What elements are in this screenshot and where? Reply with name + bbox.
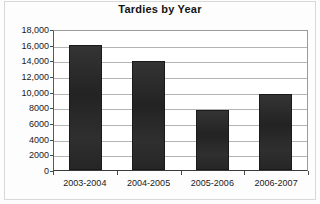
- x-axis-tick-mark: [53, 171, 54, 175]
- x-axis-tick-label: 2004-2005: [117, 177, 181, 189]
- bar-slot: [181, 31, 244, 170]
- chart-figure: Tardies by Year 18,00016,00014,00012,000…: [0, 0, 320, 204]
- y-axis-tick-label: 14,000: [4, 56, 49, 67]
- x-axis-labels: 2003-20042004-20052005-20062006-2007: [53, 177, 308, 189]
- y-axis-tick-label: 18,000: [4, 25, 49, 36]
- bar[interactable]: [259, 94, 292, 170]
- y-axis-tick-label: 0: [4, 166, 49, 177]
- y-axis-tick-label: 10,000: [4, 87, 49, 98]
- x-axis-tick-marks: [53, 171, 308, 176]
- bar-slot: [117, 31, 180, 170]
- y-axis-tick-label: 12,000: [4, 72, 49, 83]
- x-axis-tick-mark: [308, 171, 309, 175]
- bar-series: [54, 31, 307, 170]
- x-axis-tick-mark: [117, 171, 118, 175]
- x-axis-tick-label: 2006-2007: [244, 177, 308, 189]
- x-axis-tick-label: 2005-2006: [181, 177, 245, 189]
- x-axis-tick-mark: [244, 171, 245, 175]
- y-axis-tick-label: 6000: [4, 119, 49, 130]
- bar[interactable]: [69, 45, 102, 170]
- x-axis-tick-label: 2003-2004: [53, 177, 117, 189]
- bar[interactable]: [132, 61, 165, 170]
- chart-title: Tardies by Year: [0, 3, 320, 15]
- plot-area: [53, 30, 308, 171]
- y-axis-labels: 18,00016,00014,00012,00010,0008000600040…: [4, 24, 49, 177]
- y-axis-tick-label: 2000: [4, 150, 49, 161]
- y-axis-tick-label: 8000: [4, 103, 49, 114]
- y-axis-tick-label: 16,000: [4, 40, 49, 51]
- bar[interactable]: [196, 110, 229, 170]
- bar-slot: [244, 31, 307, 170]
- bar-slot: [54, 31, 117, 170]
- y-axis-tick-label: 4000: [4, 134, 49, 145]
- x-axis-tick-mark: [181, 171, 182, 175]
